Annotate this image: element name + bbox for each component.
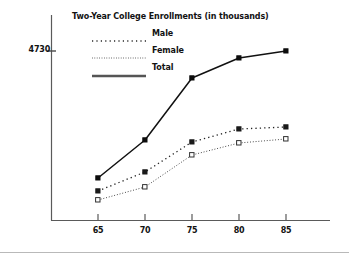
series-markers-female — [96, 137, 288, 202]
x-axis-tick-label-80: 80 — [227, 226, 251, 235]
legend-item-male: Male — [152, 29, 173, 38]
series-line-male — [98, 127, 286, 191]
chart-plot-area — [0, 0, 349, 256]
y-axis-tick-label-4730: 4730 — [16, 45, 50, 54]
page-bottom-rule — [0, 252, 349, 253]
chart-figure: Two-Year College Enrollments (in thousan… — [0, 0, 349, 256]
x-axis-tick-label-75: 75 — [180, 226, 204, 235]
series-line-female — [98, 139, 286, 200]
chart-title: Two-Year College Enrollments (in thousan… — [72, 12, 312, 21]
legend-item-total: Total — [152, 63, 173, 72]
series-line-total — [98, 51, 286, 178]
legend-item-female: Female — [152, 46, 184, 55]
x-axis-tick-label-70: 70 — [133, 226, 157, 235]
series-markers-total — [96, 49, 288, 180]
x-axis-tick-label-85: 85 — [274, 226, 298, 235]
series-markers-male — [96, 125, 288, 193]
x-axis-tick-label-65: 65 — [86, 226, 110, 235]
